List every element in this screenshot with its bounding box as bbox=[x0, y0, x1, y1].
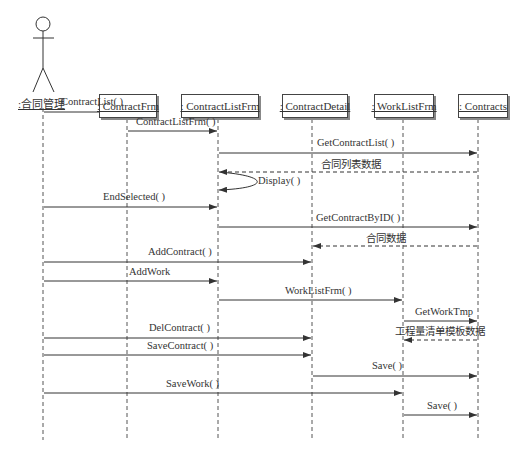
msg-label: DelContract( ) bbox=[149, 322, 210, 333]
sequence-diagram: :合同管理 : ContractFrm : ContractListFrm : … bbox=[0, 0, 527, 454]
msg-label: Display( ) bbox=[258, 175, 300, 186]
msg-label: ContractList( ) bbox=[61, 96, 123, 107]
object-contractlistfrm: : ContractListFrm bbox=[181, 94, 259, 118]
msg-label: 合同数据 bbox=[366, 230, 406, 245]
msg-label: 工程量清单模板数据 bbox=[395, 323, 485, 338]
diagram-lines bbox=[0, 0, 527, 454]
msg-label: 合同列表数据 bbox=[321, 156, 381, 171]
msg-display-self bbox=[219, 172, 257, 190]
msg-label: ContractListFrm( ) bbox=[136, 116, 216, 127]
msg-label: SaveWork( ) bbox=[166, 378, 219, 389]
object-contracts: : Contracts bbox=[458, 94, 508, 118]
actor-icon bbox=[33, 17, 54, 92]
object-contractdetail: : ContractDetail bbox=[282, 94, 348, 118]
msg-label: GetContractList( ) bbox=[317, 137, 394, 148]
msg-label: GetWorkTmp bbox=[415, 306, 473, 317]
msg-label: Save( ) bbox=[427, 400, 457, 411]
msg-label: GetContractByID( ) bbox=[316, 212, 400, 223]
msg-label: SaveContract( ) bbox=[147, 340, 213, 351]
msg-label: Save( ) bbox=[372, 360, 402, 371]
msg-label: AddWork bbox=[129, 266, 170, 277]
object-worklistfrm: : WorkListFrm bbox=[374, 94, 434, 118]
lifelines bbox=[43, 105, 478, 440]
actor-label: :合同管理 bbox=[18, 95, 65, 111]
msg-label: WorkListFrm( ) bbox=[285, 285, 352, 296]
msg-label: AddContract( ) bbox=[148, 246, 212, 257]
msg-label: EndSelected( ) bbox=[103, 191, 165, 202]
